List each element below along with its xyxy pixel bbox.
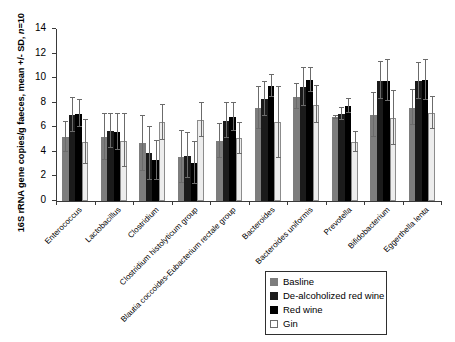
legend-item[interactable]: De-alcoholized red wine bbox=[270, 289, 382, 303]
error-bar bbox=[310, 68, 311, 93]
legend-item[interactable]: Red wine bbox=[270, 303, 382, 317]
error-bar bbox=[85, 120, 86, 164]
error-bar bbox=[219, 124, 220, 158]
error-bar bbox=[187, 133, 188, 178]
bar-group bbox=[101, 29, 127, 201]
error-cap-lower bbox=[83, 163, 88, 164]
error-cap-lower bbox=[63, 151, 68, 152]
error-bar bbox=[110, 114, 111, 148]
error-cap-upper bbox=[224, 102, 229, 103]
error-cap-lower bbox=[147, 179, 152, 180]
bar-group bbox=[293, 29, 319, 201]
y-axis-title-main: 16S rRNA gene copies/g faeces, mean +/- … bbox=[16, 34, 26, 232]
legend-label: De-alcoholized red wine bbox=[283, 291, 384, 301]
y-tick-label: 12 bbox=[35, 48, 46, 58]
error-bar bbox=[264, 82, 265, 116]
error-cap-upper bbox=[410, 89, 415, 90]
y-axis-title: 16S rRNA gene copies/g faeces, mean +/- … bbox=[17, 7, 26, 239]
x-axis-category-label: Bacteroides bbox=[241, 206, 277, 242]
error-cap-lower bbox=[179, 182, 184, 183]
error-bar bbox=[278, 87, 279, 158]
error-bar bbox=[194, 142, 195, 184]
error-cap-lower bbox=[430, 128, 435, 129]
error-cap-upper bbox=[314, 85, 319, 86]
error-cap-upper bbox=[430, 96, 435, 97]
x-tick-mark bbox=[133, 201, 134, 205]
bar bbox=[345, 106, 352, 201]
error-cap-lower bbox=[314, 122, 319, 123]
error-cap-upper bbox=[179, 130, 184, 131]
error-bar bbox=[104, 114, 105, 159]
error-bar bbox=[387, 60, 388, 101]
error-cap-upper bbox=[416, 62, 421, 63]
error-cap-lower bbox=[294, 108, 299, 109]
error-cap-lower bbox=[199, 136, 204, 137]
x-axis-category-label: Prevotella bbox=[323, 206, 354, 237]
error-bar bbox=[271, 75, 272, 97]
error-cap-lower bbox=[122, 166, 127, 167]
error-cap-lower bbox=[353, 151, 358, 152]
error-bar bbox=[239, 123, 240, 154]
y-tick-label: 14 bbox=[35, 23, 46, 33]
error-cap-lower bbox=[346, 112, 351, 113]
error-cap-upper bbox=[353, 131, 358, 132]
error-cap-upper bbox=[262, 81, 267, 82]
x-tick-mark bbox=[403, 201, 404, 205]
figure-container: 16S rRNA gene copies/g faeces, mean +/- … bbox=[0, 0, 455, 342]
bar bbox=[332, 117, 339, 201]
legend-item[interactable]: Basline bbox=[270, 275, 382, 289]
error-cap-upper bbox=[192, 141, 197, 142]
error-cap-lower bbox=[378, 98, 383, 99]
error-cap-upper bbox=[122, 113, 127, 114]
y-tick-label: 6 bbox=[40, 121, 46, 131]
legend-swatch-icon bbox=[270, 278, 278, 286]
error-cap-lower bbox=[269, 96, 274, 97]
error-cap-upper bbox=[108, 113, 113, 114]
bar bbox=[268, 86, 275, 201]
bar-group bbox=[216, 29, 242, 201]
error-cap-upper bbox=[147, 126, 152, 127]
error-cap-upper bbox=[301, 67, 306, 68]
x-axis-category-label: Clostridium bbox=[127, 206, 161, 240]
error-bar bbox=[418, 63, 419, 99]
error-cap-upper bbox=[391, 90, 396, 91]
y-axis-title-tail: =10 bbox=[16, 13, 26, 28]
error-cap-upper bbox=[185, 132, 190, 133]
error-cap-lower bbox=[115, 149, 120, 150]
error-cap-lower bbox=[385, 100, 390, 101]
error-bar bbox=[117, 114, 118, 150]
y-tick-mark: 8 bbox=[52, 102, 56, 103]
error-cap-upper bbox=[308, 67, 313, 68]
error-bar bbox=[380, 62, 381, 99]
error-cap-lower bbox=[77, 126, 82, 127]
x-axis-category-label: Enterococcus bbox=[44, 206, 84, 246]
error-cap-upper bbox=[276, 86, 281, 87]
error-cap-upper bbox=[237, 122, 242, 123]
bar-group bbox=[178, 29, 204, 201]
error-cap-lower bbox=[262, 115, 267, 116]
error-bar bbox=[348, 99, 349, 113]
legend-swatch-icon bbox=[270, 320, 278, 328]
error-bar bbox=[72, 98, 73, 131]
error-cap-upper bbox=[231, 102, 236, 103]
y-tick-label: 8 bbox=[40, 97, 46, 107]
y-tick-mark: 14 bbox=[52, 28, 56, 29]
error-cap-lower bbox=[217, 157, 222, 158]
bar bbox=[293, 97, 300, 201]
error-cap-upper bbox=[77, 99, 82, 100]
bar-group bbox=[62, 29, 88, 201]
legend-item[interactable]: Gin bbox=[270, 317, 382, 331]
error-cap-lower bbox=[160, 139, 165, 140]
error-cap-lower bbox=[423, 99, 428, 100]
error-cap-lower bbox=[391, 144, 396, 145]
error-bar bbox=[149, 127, 150, 180]
bar-group bbox=[370, 29, 396, 201]
error-bar bbox=[201, 103, 202, 136]
error-bar bbox=[162, 105, 163, 139]
error-cap-lower bbox=[154, 179, 159, 180]
y-tick-mark: 4 bbox=[52, 151, 56, 152]
error-cap-upper bbox=[378, 61, 383, 62]
error-cap-lower bbox=[333, 118, 338, 119]
plot-area: 02468101214 bbox=[56, 29, 441, 201]
legend-swatch-icon bbox=[270, 292, 278, 300]
